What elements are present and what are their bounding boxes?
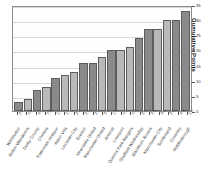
y-axis-tick: [192, 6, 195, 7]
y-axis-tick-label: 35: [196, 4, 201, 8]
bar: [181, 11, 189, 111]
bar: [126, 47, 134, 111]
bar-chart: 05101520253035 Cumulative Points 2.0Wimb…: [0, 0, 212, 170]
bar: [135, 38, 143, 111]
bar: [79, 63, 87, 111]
x-axis: 2.0Wimbledon0.6Bolton Wanderers4.2Derby …: [12, 112, 192, 170]
bar: [172, 20, 180, 111]
bar: [98, 57, 106, 112]
y-axis-title: Cumulative Points: [191, 18, 197, 98]
bar: [89, 63, 97, 111]
